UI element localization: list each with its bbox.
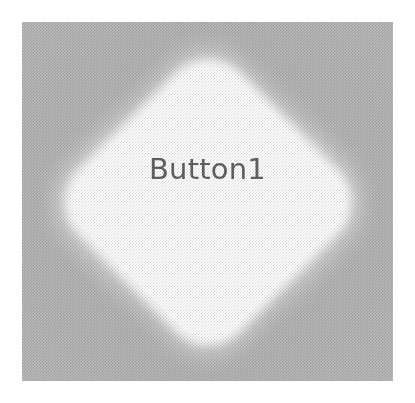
widget-preview-panel: Button1 (22, 22, 393, 381)
diamond-button-face[interactable] (56, 50, 359, 353)
diamond-button-label: Button1 (22, 155, 393, 184)
screenshot-canvas: Button1 (0, 0, 415, 403)
diamond-button[interactable] (34, 28, 382, 376)
